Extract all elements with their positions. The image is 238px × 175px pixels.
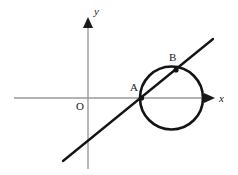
point-b-label: B (169, 52, 176, 63)
x-axis-label: x (219, 93, 224, 104)
figure-canvas (0, 0, 238, 175)
geometry-figure: y x O A B (0, 0, 238, 175)
x-axis-arrowhead (204, 93, 215, 103)
secant-line (63, 39, 213, 161)
point-a-marker (139, 95, 144, 100)
point-b-marker (173, 67, 178, 72)
y-axis-arrowhead (83, 17, 93, 28)
point-a-label: A (130, 82, 138, 93)
origin-label: O (76, 101, 84, 112)
y-axis-label: y (94, 6, 99, 17)
